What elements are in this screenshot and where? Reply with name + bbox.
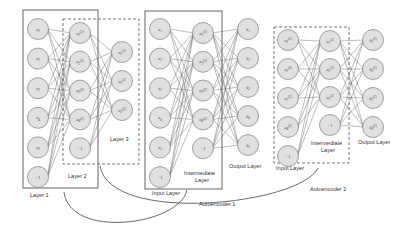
label-ae2-caption: Autoencoder 2: [310, 186, 346, 192]
edge: [47, 59, 70, 120]
edge: [47, 29, 70, 91]
label-ae2-intermediate-1: Intermediate: [311, 140, 342, 146]
edge: [212, 33, 238, 87]
label-layer2: Layer 2: [68, 173, 87, 179]
label-ae2-intermediate-2: Layer: [321, 147, 335, 153]
edge: [339, 125, 363, 127]
nodes: x1x2x3x4x5+1a1(2)a2(2)a3(2)a4(2)+1a1(3)a…: [28, 19, 384, 188]
edge: [47, 29, 70, 33]
edge: [89, 33, 112, 81]
edge: [169, 29, 193, 33]
edge: [212, 91, 238, 145]
node-label: +1: [36, 175, 41, 180]
edge: [212, 145, 238, 148]
edge: [339, 40, 363, 97]
edge: [169, 119, 193, 177]
label-layer1: Layer 1: [30, 192, 49, 198]
edge: [339, 41, 363, 127]
node-label: +1: [78, 146, 83, 151]
edge: [169, 62, 193, 118]
label-ae1-intermediate-2: Layer: [195, 177, 209, 183]
edge: [339, 40, 363, 41]
label-ae1-caption: Autoencoder 1: [199, 201, 235, 207]
edge: [89, 110, 112, 119]
edge: [169, 119, 193, 147]
edge: [297, 41, 320, 127]
edge: [169, 59, 193, 120]
edge: [297, 97, 320, 156]
edge: [89, 91, 112, 110]
label-ae1-output: Output Layer: [229, 163, 261, 169]
edge: [297, 97, 320, 127]
label-layer3: Layer 3: [110, 136, 129, 142]
edge: [89, 62, 112, 110]
edge: [297, 40, 320, 41]
edge: [89, 110, 112, 148]
label-ae1-intermediate-1: Intermediate: [184, 170, 215, 176]
edge: [212, 33, 238, 145]
edge: [297, 41, 320, 98]
edge: [212, 29, 238, 33]
stacked-autoencoder-diagram: x1x2x3x4x5+1a1(2)a2(2)a3(2)a4(2)+1a1(3)a…: [0, 0, 412, 229]
node-label: +1: [328, 123, 333, 128]
label-ae1-input: Input Layer: [152, 190, 180, 196]
edge: [339, 41, 363, 98]
edge: [89, 33, 112, 110]
edge: [89, 33, 112, 52]
node-label: +1: [201, 146, 206, 151]
edge: [47, 62, 70, 118]
node-label: +1: [158, 175, 163, 180]
edge: [169, 29, 193, 91]
edge: [47, 119, 70, 177]
label-ae2-output: Output Layer: [358, 139, 390, 145]
edge: [47, 119, 70, 147]
edge: [297, 40, 320, 97]
node-label: +1: [286, 154, 291, 159]
label-ae2-input: Input Layer: [276, 165, 304, 171]
